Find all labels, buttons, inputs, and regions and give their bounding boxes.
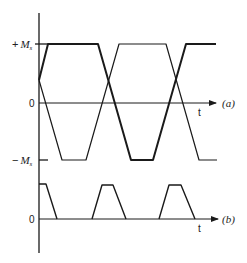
minus-ms-label: −Ms bbox=[12, 154, 33, 168]
zero-label-b: 0 bbox=[29, 214, 35, 225]
pulse-1 bbox=[39, 184, 57, 219]
waveform-diagram: +Ms −Ms 0 0 t t (a) (b) bbox=[0, 0, 247, 263]
pulse-2 bbox=[92, 185, 126, 219]
time-label-b: t bbox=[198, 223, 201, 234]
time-label-a: t bbox=[198, 107, 201, 118]
magnetization-trace-thick bbox=[39, 44, 216, 160]
panel-label-a: (a) bbox=[222, 97, 235, 110]
zero-label-a: 0 bbox=[29, 98, 35, 109]
magnetization-trace-thin bbox=[39, 44, 217, 160]
pulse-3 bbox=[159, 185, 195, 219]
plus-ms-label: +Ms bbox=[12, 38, 33, 52]
panel-label-b: (b) bbox=[222, 213, 235, 226]
